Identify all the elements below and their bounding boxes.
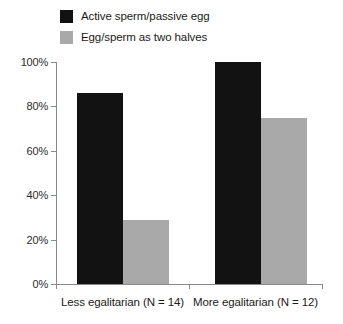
x-axis-tick-end <box>322 284 323 289</box>
legend-label-active-sperm-passive-egg: Active sperm/passive egg <box>81 10 210 23</box>
x-axis-label-less-egalitarian: Less egalitarian (N = 14) <box>56 296 189 308</box>
bar <box>123 220 169 284</box>
bar-chart: Active sperm/passive egg Egg/sperm as tw… <box>0 0 343 324</box>
bar <box>77 93 123 284</box>
y-axis-tick-label: 100% <box>21 56 48 68</box>
bar <box>215 62 261 284</box>
legend-item-active-sperm-passive-egg: Active sperm/passive egg <box>60 9 210 24</box>
y-axis-tick-label: 0% <box>33 278 49 290</box>
y-axis-tick-label: 60% <box>27 145 48 157</box>
plot-area <box>56 62 322 284</box>
y-axis-tick-label: 40% <box>27 189 48 201</box>
y-axis-tick-label: 20% <box>27 234 48 246</box>
bar <box>261 118 307 285</box>
x-axis-tick-middle <box>189 284 190 289</box>
legend-item-egg-sperm-two-halves: Egg/sperm as two halves <box>60 30 210 45</box>
y-axis-tick-label: 80% <box>27 100 48 112</box>
chart-legend: Active sperm/passive egg Egg/sperm as tw… <box>60 9 210 45</box>
legend-label-egg-sperm-two-halves: Egg/sperm as two halves <box>81 31 207 44</box>
x-axis-label-more-egalitarian: More egalitarian (N = 12) <box>189 296 322 308</box>
legend-swatch-dark <box>60 10 73 23</box>
legend-swatch-light <box>60 31 73 44</box>
x-axis-tick-start <box>56 284 57 289</box>
